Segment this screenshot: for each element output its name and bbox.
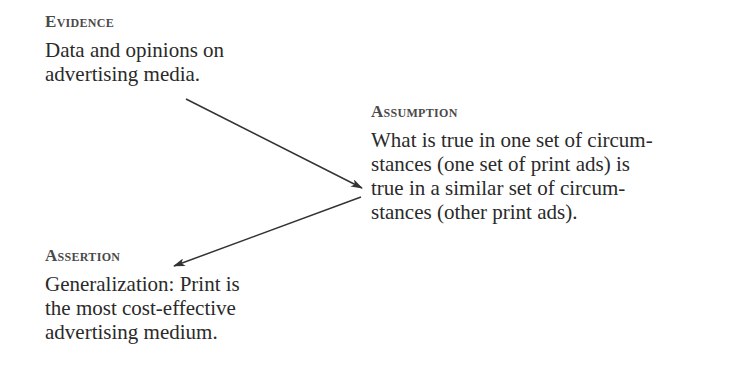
arrow-evidence-to-assumption-icon [186,99,362,188]
arrow-assumption-to-assertion-icon [174,197,361,266]
arrows-layer [0,0,741,367]
